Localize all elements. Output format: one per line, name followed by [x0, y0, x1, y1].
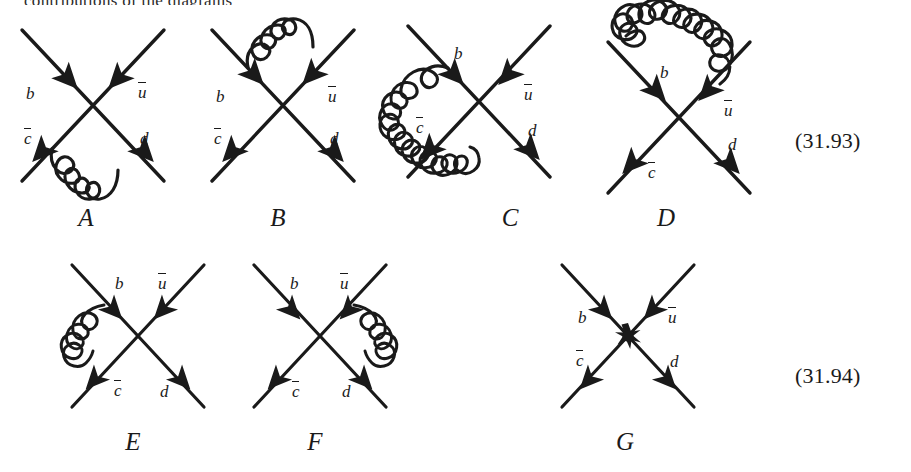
diagram-label-d: D — [646, 204, 686, 232]
gluon-big-loop-c — [380, 66, 479, 175]
label-d-f: d — [342, 383, 351, 400]
label-b-e: b — [115, 275, 124, 292]
label-d-a: d — [140, 130, 149, 147]
figure-page: contributions of the diagrams b u c d A — [0, 0, 911, 472]
diagram-label-c: C — [490, 204, 530, 232]
diagram-label-a: A — [66, 204, 106, 232]
label-cbar-c: c — [416, 119, 424, 136]
diagram-label-b: B — [258, 204, 298, 232]
label-b-a: b — [26, 85, 35, 102]
label-b-b: b — [216, 88, 225, 105]
equation-number-3193: (31.93) — [795, 128, 861, 154]
label-d-e: d — [160, 383, 169, 400]
label-b-g: b — [578, 309, 587, 326]
arrowheads-e — [78, 294, 199, 397]
label-ubar-f: u — [340, 275, 349, 292]
arrowheads-a — [23, 62, 162, 170]
diagram-b: b u c d — [198, 18, 368, 193]
diagram-g: b u c d — [548, 255, 708, 420]
label-b-d: b — [660, 64, 669, 81]
label-d-b: d — [330, 130, 339, 147]
diagram-label-f: F — [295, 428, 335, 456]
label-b-f: b — [290, 275, 299, 292]
diagram-d: b u c d — [568, 2, 783, 217]
gluon-left-e — [61, 305, 104, 366]
gluon-top-b — [247, 19, 313, 67]
diagram-a: b u c d — [8, 18, 178, 193]
diagram-f: b u c d — [240, 255, 400, 420]
label-d-g: d — [670, 353, 679, 370]
label-d-c: d — [528, 122, 537, 139]
arrowheads-f — [260, 294, 381, 397]
gluon-right-f — [354, 305, 397, 366]
arrowheads-d — [613, 74, 748, 182]
label-cbar-g: c — [576, 352, 584, 369]
diagram-c: b u c d — [360, 18, 575, 233]
label-cbar-a: c — [24, 130, 32, 147]
label-cbar-b: c — [214, 130, 222, 147]
diagram-e: b u c d — [58, 255, 218, 420]
label-d-d: d — [728, 136, 737, 153]
label-ubar-a: u — [138, 84, 147, 101]
gluon-big-loop-d — [612, 0, 732, 84]
label-ubar-c: u — [524, 86, 533, 103]
label-cbar-f: c — [292, 383, 300, 400]
label-ubar-b: u — [328, 88, 337, 105]
label-ubar-g: u — [668, 309, 677, 326]
label-b-c: b — [454, 45, 463, 62]
label-cbar-e: c — [114, 382, 122, 399]
label-ubar-e: u — [158, 275, 167, 292]
gluon-bottom-a — [51, 149, 118, 199]
label-ubar-d: u — [724, 102, 733, 119]
equation-number-3194: (31.94) — [795, 363, 861, 389]
label-cbar-d: c — [648, 164, 656, 181]
diagram-label-e: E — [113, 428, 153, 456]
diagram-label-g: G — [605, 428, 645, 456]
arrowheads-b — [213, 58, 352, 170]
